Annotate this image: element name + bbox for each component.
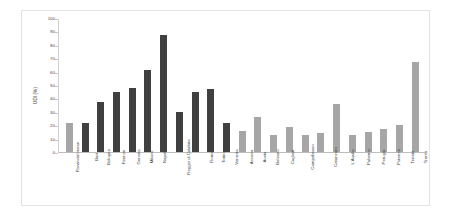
- x-axis-tick-labels: Provincial meanBariBolognaFirenzeGenovaM…: [59, 155, 426, 203]
- bar: [254, 117, 261, 152]
- bar-slot: [124, 19, 140, 152]
- bar-slot: [360, 19, 376, 152]
- y-axis-title-line-1: UDI: [33, 95, 38, 104]
- bar-slot: [187, 19, 203, 152]
- bar-slot: [77, 19, 93, 152]
- bar-slot: [172, 19, 188, 152]
- bar-series: [60, 19, 426, 152]
- bar-slot: [109, 19, 125, 152]
- bar-slot: [266, 19, 282, 152]
- bar-slot: [219, 19, 235, 152]
- bar-slot: [376, 19, 392, 152]
- x-tick-label: Trento: [424, 151, 451, 163]
- bar-slot: [282, 19, 298, 152]
- bar: [286, 127, 293, 152]
- y-axis-title-line-2: (%): [33, 86, 38, 94]
- plot-wrapper: (%) UDI 0102030405060708090100 Provincia…: [22, 11, 431, 205]
- bar-slot: [392, 19, 408, 152]
- bar-slot: [156, 19, 172, 152]
- bar-slot: [93, 19, 109, 152]
- bar-slot: [234, 19, 250, 152]
- x-label-slot: Provincial mean: [61, 155, 92, 203]
- bar-slot: [329, 19, 345, 152]
- bar: [176, 112, 183, 152]
- plot-area: [58, 19, 426, 153]
- bar-slot: [407, 19, 423, 152]
- bar-slot: [140, 19, 156, 152]
- bar: [66, 123, 73, 152]
- y-axis-tick-labels: 0102030405060708090100: [39, 11, 55, 205]
- bar-slot: [297, 19, 313, 152]
- bar: [144, 70, 151, 152]
- y-tick-label: 100: [48, 17, 55, 21]
- bar-slot: [313, 19, 329, 152]
- bar-slot: [250, 19, 266, 152]
- bar: [129, 88, 136, 152]
- chart-container: (%) UDI 0102030405060708090100 Provincia…: [21, 10, 430, 206]
- bar: [160, 35, 167, 152]
- bar-slot: [62, 19, 78, 152]
- bar: [412, 62, 419, 152]
- bar-slot: [344, 19, 360, 152]
- bar-slot: [203, 19, 219, 152]
- y-tick-mark: [55, 153, 58, 154]
